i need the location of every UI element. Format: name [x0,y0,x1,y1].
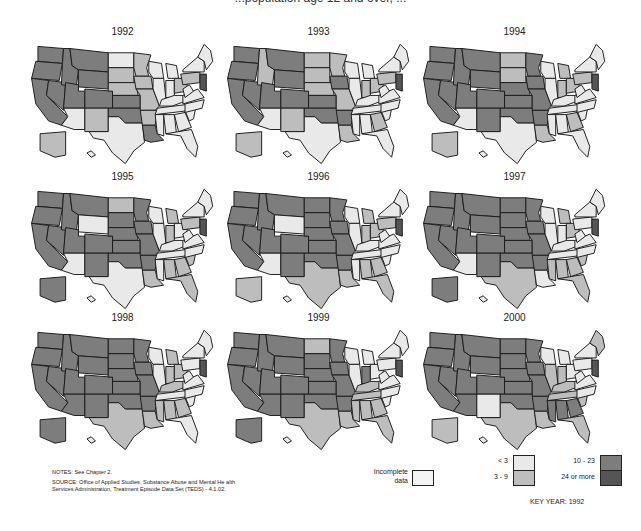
legend-key: < 3 3 - 9 10 - 23 24 or more [480,455,640,515]
state-al [164,401,177,420]
panel-year-label: 1994 [412,26,617,37]
state-ak [432,418,458,444]
us-map [412,40,612,170]
state-pa [573,217,592,230]
state-ne [108,369,138,382]
legend-label-lt3: < 3 [480,457,508,464]
state-mi [558,63,571,78]
state-nm [477,394,500,417]
state-mt [462,194,500,217]
state-wy [470,70,500,89]
state-pa [573,72,592,85]
state-fl [362,130,394,158]
state-ak [40,418,66,444]
state-ia [526,76,545,89]
state-nm [85,108,108,131]
state-wa [234,191,260,208]
state-wa [38,46,64,63]
state-hi [87,151,96,157]
state-nd [108,339,134,354]
state-sd [304,354,330,369]
state-ar [532,396,549,411]
state-ne [304,369,334,382]
state-ks [309,381,337,394]
state-pa [377,358,396,371]
state-md_de_nj [200,360,206,377]
state-nm [281,108,304,131]
panel-year-label: 1999 [216,312,421,323]
state-ks [309,240,337,253]
state-wy [274,70,304,89]
state-mt [462,335,500,358]
panel-year-label: 1996 [216,171,421,182]
state-al [556,115,569,134]
state-ks [113,240,141,253]
state-md_de_nj [396,360,402,377]
state-mt [266,194,304,217]
us-map [412,185,612,315]
map-panel-1997: 1997 [412,171,617,321]
key-year-label: KEY YEAR: 1992 [530,498,584,505]
us-map [20,185,220,315]
state-wy [470,215,500,234]
state-wa [430,46,456,63]
map-panel-1999: 1999 [216,312,421,462]
state-co [477,89,505,108]
state-in [166,366,175,383]
source-line-1: SOURCE: Office of Applied Studies, Subst… [52,479,235,485]
state-or [32,347,63,366]
state-al [556,401,569,420]
legend-swatch-3to9 [513,470,535,486]
state-wi [345,347,360,364]
state-ia [134,221,153,234]
state-ks [505,95,533,108]
map-panel-2000: 2000 [412,312,617,462]
state-nm [477,253,500,276]
map-panel-1995: 1995 [20,171,225,321]
state-ne [304,83,334,96]
state-nm [477,108,500,131]
state-mt [462,49,500,72]
state-pa [573,358,592,371]
state-sd [108,68,134,83]
state-ar [140,110,157,125]
state-ar [532,110,549,125]
state-mi [362,63,375,78]
state-ia [330,221,349,234]
state-ia [330,362,349,375]
state-wy [78,70,108,89]
state-in [558,225,567,242]
panel-year-label: 1998 [20,312,225,323]
legend-incomplete-label-line2: data [394,477,408,484]
state-or [228,206,259,225]
state-hi [479,296,488,302]
state-ks [113,95,141,108]
map-panel-1992: 1992 [20,26,225,176]
state-nd [304,339,330,354]
state-fl [166,130,198,158]
state-sd [500,68,526,83]
state-co [477,375,505,394]
state-ks [505,240,533,253]
state-wi [541,347,556,364]
state-mt [266,49,304,72]
state-wi [541,206,556,223]
state-mi [558,349,571,364]
state-wy [470,356,500,375]
panel-year-label: 1995 [20,171,225,182]
state-ar [336,110,353,125]
state-fl [362,275,394,303]
state-mt [70,49,108,72]
state-wi [345,206,360,223]
state-ak [40,277,66,303]
state-co [477,234,505,253]
state-in [362,80,371,97]
state-mt [70,194,108,217]
state-wi [149,347,164,364]
state-wy [274,356,304,375]
state-ak [432,277,458,303]
state-or [424,206,455,225]
state-pa [377,72,396,85]
state-wy [78,356,108,375]
state-ar [140,255,157,270]
